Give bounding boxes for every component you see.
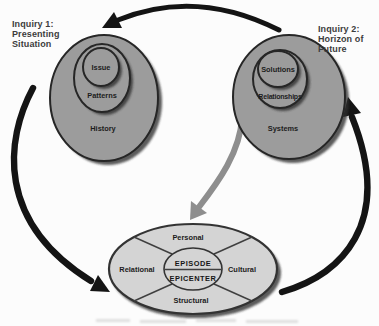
cropped-caption-remnant bbox=[96, 319, 298, 323]
inquiry2-line2: Horizon of bbox=[318, 34, 364, 44]
systems-label: Systems bbox=[268, 124, 298, 133]
systemic-inquiry-cycle-diagram: Issue Patterns History Solutions Relatio… bbox=[0, 0, 379, 326]
inquiry1-line3: Situation bbox=[12, 39, 51, 49]
epicenter-label: EPICENTER bbox=[170, 274, 217, 283]
inquiry1-caption: Inquiry 1: Presenting Situation bbox=[12, 19, 60, 49]
presenting-situation-oval: Issue Patterns History bbox=[50, 35, 162, 165]
inquiry2-caption: Inquiry 2: Horizon of Future bbox=[318, 24, 364, 54]
relational-quadrant-label: Relational bbox=[119, 265, 154, 274]
history-label: History bbox=[90, 124, 116, 133]
cultural-quadrant-label: Cultural bbox=[228, 265, 256, 274]
episode-epicenter-ellipse: EPISODE EPICENTER Personal Cultural Stru… bbox=[109, 224, 281, 318]
diagram-canvas: Issue Patterns History Solutions Relatio… bbox=[0, 0, 379, 326]
solutions-label: Solutions bbox=[261, 65, 295, 74]
episode-label: EPISODE bbox=[175, 259, 211, 268]
inquiry1-line2: Presenting bbox=[12, 29, 60, 39]
inquiry2-line3: Future bbox=[318, 44, 347, 54]
inquiry2-line1: Inquiry 2: bbox=[318, 24, 360, 34]
patterns-label: Patterns bbox=[87, 91, 117, 100]
issue-label: Issue bbox=[92, 63, 111, 72]
transition-arrow bbox=[190, 118, 242, 220]
cycle-arrow-top bbox=[102, 6, 279, 30]
relationships-label: Relationships bbox=[258, 93, 302, 101]
inquiry1-line1: Inquiry 1: bbox=[12, 19, 54, 29]
structural-quadrant-label: Structural bbox=[174, 296, 209, 305]
horizon-of-future-oval: Solutions Relationships Systems bbox=[233, 35, 349, 163]
personal-quadrant-label: Personal bbox=[172, 233, 203, 242]
